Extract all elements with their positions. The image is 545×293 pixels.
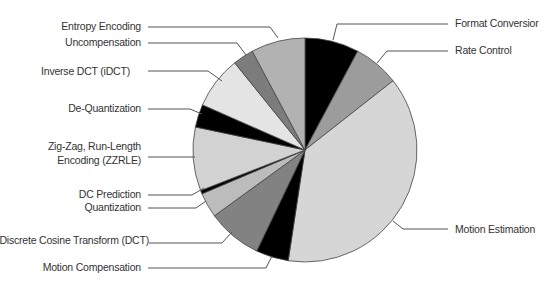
slice-label: De-Quantization	[68, 102, 141, 114]
leader-line	[149, 232, 232, 243]
slice-label: Motion Estimation	[455, 223, 535, 235]
slice-label: Inverse DCT (iDCT)	[41, 65, 130, 77]
slice-label: DC Prediction	[79, 188, 142, 200]
slice-label: Discrete Cosine Transform (DCT)	[0, 234, 149, 246]
leader-line	[148, 71, 222, 81]
leader-line	[148, 256, 272, 268]
leader-line	[393, 221, 448, 229]
slice-label: Uncompensation	[65, 36, 141, 48]
leader-line	[148, 188, 204, 195]
slice-label: Quantization	[84, 201, 141, 213]
slice-label: Zig-Zag, Run-Length	[48, 140, 141, 152]
slice-label: Entropy Encoding	[61, 20, 141, 32]
slice-label: Format Conversior	[455, 17, 539, 29]
slice-label: Motion Compensation	[43, 261, 142, 273]
leader-line	[148, 43, 246, 55]
leader-line	[148, 27, 278, 38]
pie-chart: Entropy EncodingUncompensationInverse DC…	[0, 0, 545, 293]
leader-line	[148, 109, 202, 114]
leader-line	[377, 51, 448, 63]
slice-label: Rate Control	[455, 44, 512, 56]
leader-line	[148, 201, 206, 208]
pie-slices	[193, 38, 417, 262]
leader-line	[333, 24, 448, 40]
slice-label: Encoding (ZZRLE)	[57, 154, 141, 166]
